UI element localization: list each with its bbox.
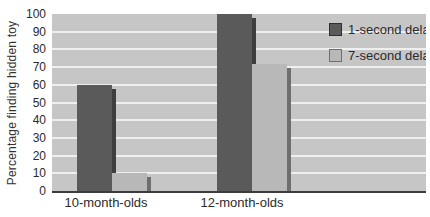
legend-swatch-7-second-delay [329,49,342,62]
y-tick-0: 0 [0,184,46,198]
legend-item-1-second-delay: 1-second delay [329,23,426,36]
y-tick-20: 20 [0,149,46,163]
y-tick-80: 80 [0,42,46,56]
bar-12-month-olds-7-second-delay [252,64,287,191]
x-label-10-month-olds: 10-month-olds [64,195,147,210]
legend-swatch-1-second-delay [329,23,342,36]
y-tick-100: 100 [0,7,46,21]
bar-10-month-olds-1-second-delay [77,85,112,191]
y-tick-60: 60 [0,78,46,92]
x-label-12-month-olds: 12-month-olds [200,195,283,210]
bar-chart-figure: Percentage finding hidden toy 0102030405… [0,0,430,217]
bar-10-month-olds-7-second-delay [112,173,147,191]
y-tick-50: 50 [0,96,46,110]
y-tick-70: 70 [0,60,46,74]
legend-label-1-second-delay: 1-second delay [348,23,426,36]
y-tick-40: 40 [0,113,46,127]
legend-label-7-second-delay: 7-second delay [348,49,426,62]
y-tick-90: 90 [0,25,46,39]
y-tick-10: 10 [0,166,46,180]
plot-area: 1-second delay 7-second delay [52,14,426,193]
y-tick-30: 30 [0,131,46,145]
bar-12-month-olds-1-second-delay [217,14,252,191]
legend-item-7-second-delay: 7-second delay [329,49,426,62]
